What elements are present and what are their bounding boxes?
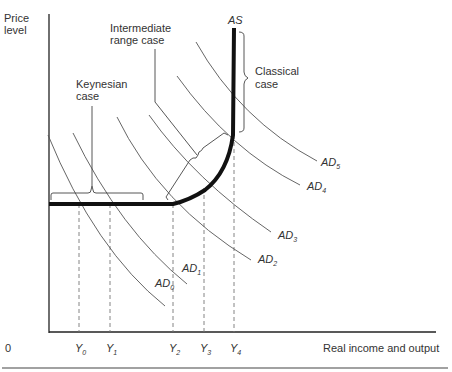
output-guide-lines [79,135,234,332]
keynesian-label: Keynesian [76,78,127,90]
keynesian-label-line2: case [76,90,99,102]
x-tick-labels: Y0 Y1 Y2 Y3 Y4 [75,342,241,356]
svg-text:AD1: AD1 [181,262,201,276]
intermediate-label-line2: range case [110,34,164,46]
svg-text:Y1: Y1 [106,342,117,356]
intermediate-label: Intermediate [110,22,171,34]
svg-text:AD0: AD0 [154,277,174,291]
svg-text:AD2: AD2 [257,253,277,267]
svg-text:AD3: AD3 [277,229,297,243]
ad3-curve [149,115,271,232]
origin-label: 0 [5,342,11,354]
as-label: AS [227,14,243,26]
intermediate-bracket [166,133,228,200]
y-axis-label: Price [4,12,29,24]
svg-text:Y3: Y3 [200,342,211,356]
aggregate-supply-demand-diagram: Price level Real income and output 0 AD0… [0,0,452,372]
y-axis-label-line2: level [4,24,27,36]
intermediate-pointer [155,102,197,155]
keynesian-bracket [51,186,143,200]
classical-bracket [239,32,248,132]
ad4-curve [177,76,300,185]
as-curve [49,28,234,204]
classical-label-line2: case [255,78,278,90]
svg-text:Y2: Y2 [169,342,180,356]
svg-text:AD4: AD4 [306,180,326,194]
x-axis-label: Real income and output [323,342,439,354]
ad1-curve [73,133,187,284]
svg-text:Y0: Y0 [75,342,86,356]
ad0-curve [48,135,165,306]
classical-label: Classical [255,65,299,77]
ad5-curve [196,42,317,161]
ad-labels: AD0 AD1 AD2 AD3 AD4 AD5 [154,156,340,291]
svg-text:AD5: AD5 [320,156,340,170]
svg-text:Y4: Y4 [230,342,241,356]
